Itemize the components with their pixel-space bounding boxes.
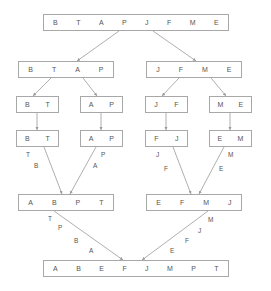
cell-split-right-1: F	[169, 66, 192, 73]
node-split-jf: JF	[145, 96, 188, 113]
cell-final-0: A	[44, 265, 67, 272]
cell-root-3: P	[113, 19, 136, 26]
edge-root-to-left	[77, 31, 119, 61]
node-merge-fj: FJ	[145, 130, 188, 147]
cell-split-bt-1: T	[38, 101, 58, 108]
edge-bt-to-merge	[44, 147, 62, 194]
cell-root-4: J	[136, 19, 158, 26]
edge-label-lbl-ap-a: A	[93, 163, 97, 170]
node-split-right: JFME	[146, 61, 242, 78]
cell-split-jf-1: F	[166, 101, 187, 108]
node-split-ap: AP	[80, 96, 123, 113]
edge-label-lbl-abpt-a: A	[89, 248, 93, 255]
cell-merge-fj-1: J	[167, 135, 187, 142]
cell-merge-efmj-1: F	[171, 199, 194, 206]
cell-split-me-0: M	[210, 101, 231, 108]
cell-merge-fj-0: F	[146, 135, 167, 142]
cell-root-5: F	[158, 19, 181, 26]
cell-final-7: T	[205, 265, 228, 272]
cell-merge-abpt-0: A	[19, 199, 43, 206]
cell-final-2: E	[90, 265, 113, 272]
cell-split-left-2: A	[66, 66, 90, 73]
edge-label-lbl-efmj-e: E	[170, 248, 174, 255]
cell-split-left-1: T	[43, 66, 66, 73]
cell-merge-efmj-3: J	[219, 199, 241, 206]
cell-root-7: E	[205, 19, 228, 26]
cell-merge-bt-1: T	[38, 135, 58, 142]
node-merge-ap: AP	[80, 130, 123, 147]
node-merge-abpt: ABPT	[18, 194, 114, 211]
node-split-bt: BT	[16, 96, 59, 113]
cell-final-3: F	[113, 265, 136, 272]
edge-root-to-right	[153, 31, 196, 61]
cell-merge-bt-0: B	[17, 135, 38, 142]
cell-split-jf-0: J	[146, 101, 166, 108]
edge-fj-to-merge	[173, 147, 191, 194]
cell-split-ap-0: A	[81, 101, 102, 108]
cell-root-2: A	[90, 19, 113, 26]
edge-efmj-to-final	[142, 211, 208, 260]
edge-l1left-to-ap	[83, 78, 97, 96]
cell-root-6: M	[181, 19, 205, 26]
cell-root-0: B	[44, 19, 67, 26]
edge-label-lbl-abpt-t: T	[48, 216, 52, 223]
cell-final-6: P	[182, 265, 205, 272]
node-merge-bt: BT	[16, 130, 59, 147]
edge-ap-to-merge	[70, 147, 96, 194]
cell-merge-abpt-1: B	[43, 199, 67, 206]
edge-label-lbl-fj-f: F	[164, 166, 168, 173]
node-merge-em: EM	[209, 130, 252, 147]
cell-final-5: M	[158, 265, 182, 272]
edge-label-lbl-bt-b: B	[34, 163, 38, 170]
cell-merge-efmj-0: E	[147, 199, 171, 206]
edge-label-lbl-efmj-j: J	[198, 228, 201, 235]
merge-sort-diagram: BTAPJFMEBTAPJFMEBTAPJFMEBTAPFJEMABPTEFMJ…	[0, 0, 271, 291]
edge-label-lbl-efmj-m: M	[208, 217, 213, 224]
cell-split-bt-0: B	[17, 101, 38, 108]
cell-split-left-0: B	[19, 66, 43, 73]
cell-final-1: B	[67, 265, 90, 272]
edge-label-lbl-abpt-b: B	[74, 238, 78, 245]
cell-final-4: J	[136, 265, 158, 272]
cell-split-right-2: M	[193, 66, 218, 73]
cell-root-1: T	[67, 19, 90, 26]
cell-merge-abpt-3: T	[90, 199, 113, 206]
cell-merge-em-0: E	[210, 135, 230, 142]
edge-label-lbl-efmj-f: F	[185, 238, 189, 245]
node-root: BTAPJFME	[43, 14, 229, 31]
cell-split-me-1: E	[231, 101, 251, 108]
cell-split-right-3: E	[217, 66, 241, 73]
cell-merge-ap-1: P	[102, 135, 123, 142]
cell-split-ap-1: P	[102, 101, 123, 108]
edge-label-lbl-em-e: E	[219, 166, 223, 173]
edge-label-lbl-em-m: M	[228, 152, 233, 159]
edge-l1left-to-bt	[33, 78, 51, 96]
cell-merge-em-1: M	[230, 135, 251, 142]
edge-label-lbl-ap-p: P	[101, 152, 105, 159]
node-split-left: BTAP	[18, 61, 114, 78]
cell-merge-abpt-2: P	[66, 199, 90, 206]
node-split-me: ME	[209, 96, 252, 113]
edge-l1right-to-me	[211, 78, 226, 96]
cell-merge-ap-0: A	[81, 135, 102, 142]
cell-split-right-0: J	[147, 66, 169, 73]
edge-label-lbl-fj-j: J	[156, 152, 159, 159]
cell-split-left-3: P	[89, 66, 113, 73]
cell-merge-efmj-2: M	[194, 199, 219, 206]
node-merge-efmj: EFMJ	[146, 194, 242, 211]
node-final: ABEFJMPT	[43, 260, 229, 277]
edge-l1right-to-jf	[162, 78, 179, 96]
edge-label-lbl-bt-t: T	[26, 152, 30, 159]
edge-label-lbl-abpt-p: P	[58, 225, 62, 232]
